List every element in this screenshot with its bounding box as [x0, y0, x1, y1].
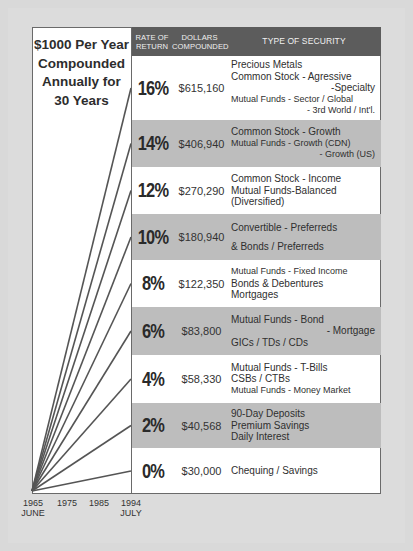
security-type: Chequing / Savings — [229, 465, 381, 477]
security-line: Premium Savings — [231, 420, 381, 432]
security-type: Common Stock - IncomeMutual Funds-Balanc… — [229, 173, 381, 208]
dollars-compounded: $406,940 — [174, 138, 229, 150]
x-tick-1994: 1994 JULY — [116, 498, 146, 518]
x-tick-1985: 1985 — [84, 498, 114, 508]
growth-line-10pct — [32, 237, 131, 491]
growth-line-12pct — [32, 191, 131, 492]
header-type: TYPE OF SECURITY — [227, 37, 381, 46]
rate-of-return: 12% — [136, 179, 170, 202]
table-row: 2%$40,56890-Day DepositsPremium SavingsD… — [132, 403, 381, 448]
security-line: Mutual Funds - Bond — [231, 314, 381, 326]
dollars-compounded: $270,290 — [174, 185, 229, 197]
security-line: Mutual Funds - Sector / Global — [231, 94, 381, 106]
security-line: GICs / TDs / CDs — [231, 337, 381, 349]
dollars-compounded: $122,350 — [174, 278, 229, 290]
security-table: RATE OF RETURN DOLLARS COMPOUNDED TYPE O… — [131, 27, 381, 494]
security-type: Precious MetalsCommon Stock - Agressive-… — [229, 59, 381, 117]
security-line: Precious Metals — [231, 59, 381, 71]
security-line: Mutual Funds - Growth (CDN) — [231, 138, 381, 150]
security-line: Mortgages — [231, 289, 381, 301]
security-line: Mutual Funds - Fixed Income — [231, 266, 381, 278]
growth-line-14pct — [32, 144, 131, 492]
security-line: 90-Day Deposits — [231, 408, 381, 420]
security-line: (Diversified) — [231, 196, 381, 208]
security-line: & Bonds / Preferreds — [231, 241, 381, 253]
security-line: -Specialty — [231, 82, 381, 94]
rate-of-return: 2% — [136, 414, 170, 437]
security-type: 90-Day DepositsPremium SavingsDaily Inte… — [229, 408, 381, 443]
rate-of-return: 6% — [136, 320, 170, 343]
security-line: Mutual Funds-Balanced — [231, 185, 381, 197]
header-dollars: DOLLARS COMPOUNDED — [172, 33, 227, 51]
security-type: Convertible - Preferreds& Bonds / Prefer… — [229, 222, 381, 253]
table-row: 4%$58,330Mutual Funds - T-BillsCSBs / CT… — [132, 355, 381, 403]
header-rate: RATE OF RETURN — [132, 33, 172, 51]
x-tick-1965: 1965 JUNE — [18, 498, 48, 518]
table-row: 8%$122,350Mutual Funds - Fixed IncomeBon… — [132, 260, 381, 307]
table-header: RATE OF RETURN DOLLARS COMPOUNDED TYPE O… — [132, 27, 381, 56]
table-row: 6%$83,800Mutual Funds - Bond- MortgageGI… — [132, 307, 381, 355]
growth-lines — [32, 27, 131, 494]
growth-lines-chart: $1000 Per Year Compounded Annually for 3… — [32, 27, 131, 494]
rate-of-return: 16% — [136, 77, 170, 100]
security-line: - Mortgage — [231, 325, 381, 337]
rate-of-return: 14% — [136, 132, 170, 155]
dollars-compounded: $40,568 — [174, 420, 229, 432]
security-line: Common Stock - Growth — [231, 126, 381, 138]
security-line: - 3rd World / Int'l. — [231, 105, 381, 117]
dollars-compounded: $615,160 — [174, 82, 229, 94]
dollars-compounded: $30,000 — [174, 465, 229, 477]
rate-of-return: 10% — [136, 226, 170, 249]
security-line: Mutual Funds - Money Market — [231, 385, 381, 397]
security-line: Bonds & Debentures — [231, 278, 381, 290]
security-line: Chequing / Savings — [231, 465, 381, 477]
growth-line-6pct — [32, 331, 131, 491]
dollars-compounded: $83,800 — [174, 325, 229, 337]
security-line: Convertible - Preferreds — [231, 222, 381, 234]
growth-line-16pct — [32, 88, 131, 491]
security-line: Common Stock - Income — [231, 173, 381, 185]
security-line: Daily Interest — [231, 431, 381, 443]
rate-of-return: 8% — [136, 272, 170, 295]
rate-of-return: 4% — [136, 368, 170, 391]
dollars-compounded: $58,330 — [174, 373, 229, 385]
table-row: 10%$180,940Convertible - Preferreds& Bon… — [132, 214, 381, 260]
table-row: 0%$30,000Chequing / Savings — [132, 448, 381, 494]
table-row: 12%$270,290Common Stock - IncomeMutual F… — [132, 167, 381, 214]
security-type: Mutual Funds - T-BillsCSBs / CTBsMutual … — [229, 362, 381, 397]
security-line: Mutual Funds - T-Bills — [231, 362, 381, 374]
rate-of-return: 0% — [136, 460, 170, 483]
dollars-compounded: $180,940 — [174, 231, 229, 243]
security-line: - Growth (US) — [231, 149, 381, 161]
security-line: CSBs / CTBs — [231, 373, 381, 385]
security-line: Common Stock - Agressive — [231, 71, 381, 83]
table-row: 14%$406,940Common Stock - GrowthMutual F… — [132, 120, 381, 167]
x-tick-1975: 1975 — [52, 498, 82, 508]
security-type: Mutual Funds - Fixed IncomeBonds & Deben… — [229, 266, 381, 301]
table-row: 16%$615,160Precious MetalsCommon Stock -… — [132, 56, 381, 120]
security-type: Common Stock - GrowthMutual Funds - Grow… — [229, 126, 381, 161]
security-type: Mutual Funds - Bond- MortgageGICs / TDs … — [229, 314, 381, 349]
